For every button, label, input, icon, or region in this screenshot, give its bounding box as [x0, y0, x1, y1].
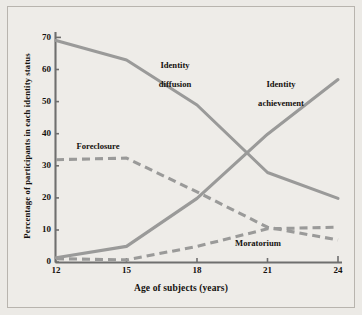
x-tick-label-15: 15 — [115, 265, 139, 275]
y-tick-label-10: 10 — [29, 224, 51, 234]
x-tick-label-21: 21 — [256, 265, 280, 275]
series-label-identity-diffusion: Identity diffusion — [144, 51, 206, 99]
y-tick-label-20: 20 — [29, 192, 51, 202]
y-tick-label-70: 70 — [29, 32, 51, 42]
series-label-identity-achievement-line1: Identity — [243, 80, 319, 90]
series-label-identity-achievement-line2: achievement — [243, 99, 319, 109]
x-tick-label-24: 24 — [326, 265, 350, 275]
y-axis-title: Percentage of participants in each ident… — [22, 26, 32, 266]
series-label-identity-diffusion-line1: Identity — [144, 61, 206, 71]
series-label-identity-diffusion-line2: diffusion — [144, 80, 206, 90]
x-tick-label-12: 12 — [44, 265, 68, 275]
series-label-foreclosure: Foreclosure — [62, 142, 134, 152]
figure-container: 70 60 50 40 30 20 10 0 12 15 18 21 24 Ag… — [0, 0, 362, 315]
series-label-moratorium: Moratorium — [222, 239, 294, 249]
series-line-moratorium — [56, 227, 338, 260]
y-tick-label-40: 40 — [29, 128, 51, 138]
x-axis-title: Age of subjects (years) — [0, 283, 362, 293]
y-tick-label-50: 50 — [29, 96, 51, 106]
y-tick-label-30: 30 — [29, 160, 51, 170]
series-label-identity-achievement: Identity achievement — [243, 70, 319, 118]
y-tick-label-60: 60 — [29, 64, 51, 74]
x-tick-label-18: 18 — [185, 265, 209, 275]
